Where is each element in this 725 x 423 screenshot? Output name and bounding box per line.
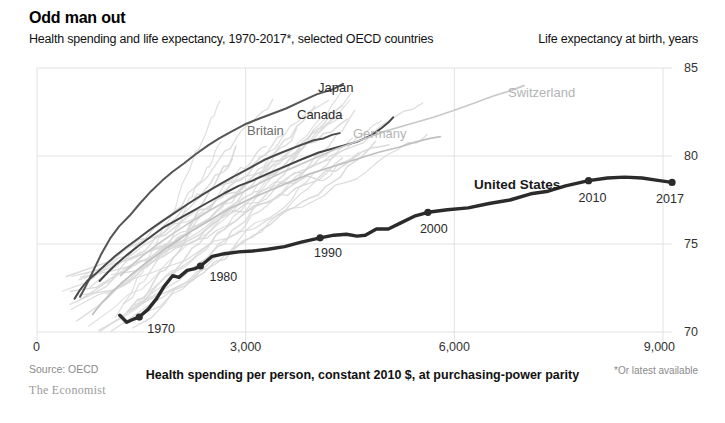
y-tick-85: 85 (684, 61, 698, 75)
x-tick-9000: 9,000 (644, 340, 675, 354)
year-marker-1970 (136, 313, 143, 320)
year-label-1990: 1990 (314, 246, 342, 260)
y-tick-70: 70 (684, 325, 698, 339)
series-label-germany: Germany (353, 126, 406, 141)
series-label-canada: Canada (297, 107, 343, 122)
brand-logo: The Economist (29, 383, 106, 398)
year-label-2017: 2017 (656, 192, 684, 206)
chart-canvas (0, 0, 725, 423)
y-tick-75: 75 (684, 237, 698, 251)
x-tick-6000: 6,000 (439, 340, 470, 354)
x-axis-caption: Health spending per person, constant 201… (146, 368, 579, 382)
series-label-switzerland: Switzerland (508, 85, 575, 100)
year-label-1970: 1970 (147, 322, 175, 336)
y-tick-80: 80 (684, 149, 698, 163)
year-marker-1990 (316, 234, 323, 241)
year-label-2000: 2000 (420, 222, 448, 236)
series-label-japan: Japan (318, 80, 353, 95)
footnote: *Or latest available (614, 365, 698, 376)
series-label-united-states: United States (474, 177, 560, 192)
x-tick-3000: 3,000 (230, 340, 261, 354)
year-marker-2017 (668, 179, 675, 186)
year-marker-2000 (424, 209, 431, 216)
series-label-britain: Britain (247, 123, 284, 138)
year-marker-2010 (585, 177, 592, 184)
year-label-2010: 2010 (579, 191, 607, 205)
year-marker-1980 (197, 262, 204, 269)
source-note: Source: OECD (29, 363, 98, 375)
year-label-1980: 1980 (209, 270, 237, 284)
x-tick-0: 0 (33, 340, 40, 354)
gridlines (37, 68, 672, 344)
chart-page: Odd man out Health spending and life exp… (0, 0, 725, 423)
